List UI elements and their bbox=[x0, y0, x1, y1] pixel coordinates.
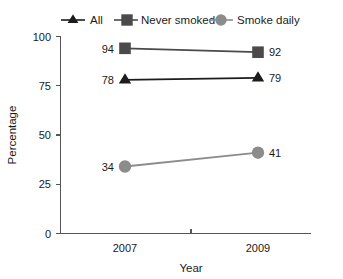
legend-label-never-smoked: Never smoked bbox=[141, 14, 215, 26]
data-label-all-2007: 78 bbox=[102, 74, 114, 86]
y-tick-label-75: 75 bbox=[39, 80, 51, 92]
triangle-icon bbox=[68, 14, 79, 23]
y-tick-label-50: 50 bbox=[39, 129, 51, 141]
y-tick-label-0: 0 bbox=[45, 228, 51, 240]
data-point-smoke-daily-2007[interactable] bbox=[119, 160, 131, 172]
data-point-never-smoked-2009[interactable] bbox=[252, 46, 264, 58]
y-tick-label-25: 25 bbox=[39, 178, 51, 190]
x-axis-title: Year bbox=[179, 262, 202, 274]
data-label-smoke-daily-2009: 41 bbox=[269, 147, 281, 159]
chart-legend: All Never smoked Smoke daily bbox=[61, 14, 300, 26]
series-smoke-daily: 34 41 bbox=[102, 147, 282, 173]
series-line-smoke-daily bbox=[125, 153, 258, 167]
square-icon bbox=[121, 14, 132, 25]
chart-svg: All Never smoked Smoke daily bbox=[0, 0, 343, 279]
y-tick-label-100: 100 bbox=[33, 31, 51, 43]
data-point-all-2009[interactable] bbox=[252, 71, 264, 81]
legend-label-all: All bbox=[90, 14, 103, 26]
data-point-never-smoked-2007[interactable] bbox=[119, 43, 131, 55]
x-tick-label-2007: 2007 bbox=[113, 242, 137, 254]
x-tick-label-2009: 2009 bbox=[246, 242, 270, 254]
data-point-smoke-daily-2009[interactable] bbox=[252, 147, 264, 159]
series-never-smoked: 94 92 bbox=[102, 43, 282, 59]
series-all: 78 79 bbox=[102, 71, 282, 86]
chart-axes: 100 75 50 25 0 2007 2009 Year Percentage bbox=[6, 31, 311, 275]
data-label-never-smoked-2007: 94 bbox=[102, 43, 114, 55]
legend-item-all[interactable]: All bbox=[61, 14, 103, 26]
legend-item-smoke-daily[interactable]: Smoke daily bbox=[209, 14, 300, 26]
data-point-all-2007[interactable] bbox=[119, 73, 131, 83]
data-label-smoke-daily-2007: 34 bbox=[102, 161, 114, 173]
series-line-never-smoked bbox=[125, 48, 258, 52]
legend-item-never-smoked[interactable]: Never smoked bbox=[114, 14, 215, 26]
chart-container: All Never smoked Smoke daily bbox=[0, 0, 343, 279]
circle-icon bbox=[215, 14, 226, 25]
series-line-all bbox=[125, 78, 258, 80]
data-label-all-2009: 79 bbox=[269, 72, 281, 84]
legend-label-smoke-daily: Smoke daily bbox=[237, 14, 300, 26]
y-axis-title: Percentage bbox=[6, 106, 18, 165]
data-label-never-smoked-2009: 92 bbox=[269, 46, 281, 58]
